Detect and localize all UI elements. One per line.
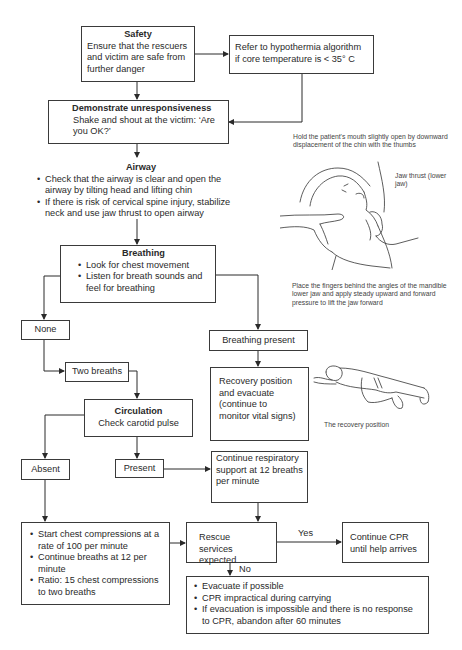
unresponsiveness-text: Shake and shout at the victim: ‘Are you … (73, 115, 215, 137)
none-box: None (21, 320, 70, 340)
unresponsiveness-title: Demonstrate unresponsiveness (72, 103, 223, 115)
evacuate-bullet: If evacuation is impossible and there is… (193, 604, 422, 627)
absent-box: Absent (21, 459, 70, 480)
chest-bullet: Start chest compressions at a rate of 10… (29, 529, 163, 552)
two-breaths-label: Two breaths (72, 366, 122, 376)
jaw-thrust-caption-top: Hold the patient's mouth slightly open b… (293, 133, 451, 150)
continue-respiratory-box: Continue respiratory support at 12 breat… (211, 451, 308, 503)
airway-bullet: Check that the airway is clear and open … (36, 174, 246, 197)
safety-box: Safety Ensure that the rescuers and vict… (81, 26, 195, 82)
breathing-bullet: Look for chest movement (77, 260, 210, 272)
breathing-box: Breathing Look for chest movement Listen… (60, 245, 216, 303)
circulation-text: Check carotid pulse (98, 418, 179, 428)
jaw-thrust-caption-bottom: Place the fingers behind the angles of t… (292, 282, 452, 307)
safety-text: Ensure that the rescuers and victim are … (87, 41, 187, 74)
circulation-box: Circulation Check carotid pulse (84, 399, 193, 437)
chest-compressions-box: Start chest compressions at a rate of 10… (21, 522, 170, 605)
rescue-services-text: Rescue services expected (199, 532, 236, 565)
continue-respiratory-text: Continue respiratory support at 12 breat… (216, 453, 303, 486)
evacuate-bullet: Evacuate if possible (193, 581, 422, 593)
airway-section: Airway Check that the airway is clear an… (36, 162, 246, 220)
hypothermia-box: Refer to hypothermia algorithm if core t… (229, 35, 374, 74)
unresponsiveness-box: Demonstrate unresponsiveness Shake and s… (48, 100, 229, 144)
no-label: No (239, 564, 251, 574)
continue-cpr-text: Continue CPR until help arrives (350, 532, 417, 554)
absent-label: Absent (31, 464, 60, 474)
none-label: None (35, 324, 57, 334)
hypothermia-text: Refer to hypothermia algorithm if core t… (235, 42, 361, 64)
continue-cpr-box: Continue CPR until help arrives (342, 522, 429, 563)
evacuate-box: Evacuate if possible CPR impractical dur… (186, 576, 429, 634)
jaw-thrust-illustration-icon (280, 160, 420, 270)
recovery-position-illustration-icon (312, 362, 432, 414)
recovery-position-caption: The recovery position (324, 421, 389, 429)
breathing-present-box: Breathing present (209, 330, 308, 351)
chest-bullet: Ratio: 15 chest compressions to two brea… (29, 575, 163, 598)
recovery-box: Recovery position and evacuate (continue… (210, 367, 309, 441)
present-box: Present (115, 459, 164, 478)
breathing-bullet: Listen for breath sounds and feel for br… (77, 271, 210, 294)
breathing-present-label: Breathing present (222, 335, 295, 345)
safety-title: Safety (87, 29, 189, 41)
breathing-title: Breathing (77, 248, 210, 260)
two-breaths-box: Two breaths (65, 362, 129, 382)
rescue-services-box: Rescue services expected (186, 522, 277, 563)
recovery-text: Recovery position and evacuate (continue… (219, 376, 296, 421)
chest-bullet: Continue breaths at 12 per minute (29, 552, 163, 575)
airway-bullet: If there is risk of cervical spine injur… (36, 197, 246, 220)
circulation-title: Circulation (90, 406, 187, 418)
airway-title: Airway (36, 162, 246, 174)
present-label: Present (124, 463, 156, 473)
evacuate-bullet: CPR impractical during carrying (193, 593, 422, 605)
yes-label: Yes (298, 528, 313, 538)
